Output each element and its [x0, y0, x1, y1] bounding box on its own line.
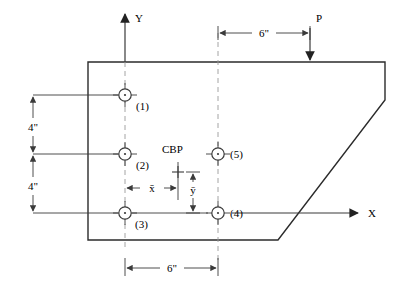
bolt-2-center-dot [124, 153, 126, 155]
dim-top-label: 6" [259, 27, 269, 39]
dim-4a-label: 4" [28, 121, 38, 133]
bolt-5[interactable]: (5) [206, 142, 243, 166]
bolt-3-label: (3) [135, 218, 148, 231]
bolt-1-label: (1) [136, 100, 149, 113]
bolt-5-center-dot [217, 153, 219, 155]
dimension-x-bar: x̄ [127, 162, 178, 200]
dimension-horizontal-top: 6" [218, 26, 310, 40]
load-p-group: P [310, 12, 322, 60]
bolt-1[interactable]: (1) [113, 83, 149, 113]
bolt-4-center-dot [217, 212, 219, 214]
bolt-3[interactable]: (3) [113, 201, 148, 231]
x-axis-label: X [368, 207, 376, 219]
dimension-vertical-upper: 4" [28, 97, 38, 152]
dimension-vertical-lower: 4" [28, 156, 38, 211]
bolt-5-label: (5) [230, 148, 243, 161]
bolt-1-center-dot [124, 94, 126, 96]
bolt-2-label: (2) [136, 159, 149, 172]
centroid-marker-group: CBP [162, 143, 184, 178]
dim-4b-label: 4" [28, 180, 38, 192]
dim-ybar-label: ȳ [190, 184, 196, 196]
bolt-4-label: (4) [230, 207, 243, 220]
centroid-label: CBP [162, 143, 183, 155]
bolt-3-center-dot [124, 212, 126, 214]
dimension-horizontal-bottom: 6" [125, 258, 218, 276]
bolt-4[interactable]: (4) [206, 201, 243, 225]
load-p-label: P [316, 12, 322, 24]
bracket-plate-diagram: Y X (1) (2) (3) [0, 0, 400, 288]
dim-xbar-label: x̄ [149, 182, 155, 194]
bolt-2[interactable]: (2) [113, 142, 149, 172]
dim-bottom-label: 6" [167, 262, 177, 274]
y-axis-label: Y [135, 12, 143, 24]
diagram-canvas: Y X (1) (2) (3) [0, 0, 400, 288]
dimension-y-bar: ȳ [186, 172, 200, 213]
